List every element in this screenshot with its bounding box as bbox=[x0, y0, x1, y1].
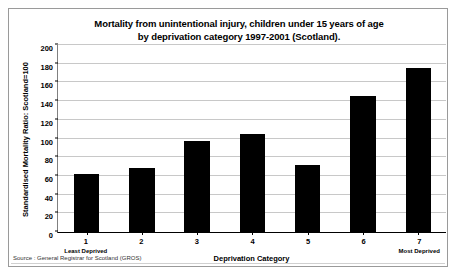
x-axis-tick-mark bbox=[87, 232, 88, 235]
bar-slot bbox=[391, 45, 446, 232]
y-axis-tick-mark bbox=[55, 212, 58, 213]
y-axis-tick-mark bbox=[55, 174, 58, 175]
bar-slot bbox=[335, 45, 390, 232]
x-axis-category-number: 6 bbox=[336, 237, 392, 247]
x-tick-slot bbox=[114, 232, 169, 236]
x-axis-tick-mark bbox=[197, 232, 198, 235]
y-axis-tick-label: 200 bbox=[40, 44, 53, 45]
x-axis-tick-mark bbox=[363, 232, 364, 235]
source-note: Source : General Registrar for Scotland … bbox=[13, 255, 141, 261]
y-axis-tick-label: 100 bbox=[40, 137, 53, 138]
bar-category-7 bbox=[406, 68, 431, 232]
x-tick-slot bbox=[335, 232, 390, 236]
x-tick-slot bbox=[225, 232, 280, 236]
y-axis-tick-mark bbox=[55, 81, 58, 82]
bar-category-2 bbox=[129, 168, 154, 232]
x-axis-category-number: 1 bbox=[58, 237, 114, 247]
bar-category-6 bbox=[350, 96, 375, 232]
bar-series bbox=[59, 45, 446, 232]
bar-category-1 bbox=[74, 174, 99, 232]
x-axis-tick-mark bbox=[308, 232, 309, 235]
y-axis-tick-label: 20 bbox=[45, 212, 53, 213]
y-axis-tick-mark bbox=[55, 44, 58, 45]
y-axis-tick-mark bbox=[55, 156, 58, 157]
chart-frame: Mortality from unintentional injury, chi… bbox=[8, 8, 448, 267]
bar-slot bbox=[280, 45, 335, 232]
x-axis-tick-mark bbox=[418, 232, 419, 235]
y-axis-tick-label: 160 bbox=[40, 81, 53, 82]
bar-slot bbox=[59, 45, 114, 232]
y-axis-tick-mark bbox=[55, 231, 58, 232]
chart-title: Mortality from unintentional injury, chi… bbox=[49, 18, 429, 43]
y-axis-tick-label: 60 bbox=[45, 174, 53, 175]
bar-category-5 bbox=[295, 165, 320, 232]
y-axis-tick-label: 0 bbox=[49, 231, 53, 232]
x-tick-slot bbox=[280, 232, 335, 236]
y-axis-tick-label: 40 bbox=[45, 193, 53, 194]
y-axis-tick-label: 120 bbox=[40, 118, 53, 119]
y-axis-title-label: Standardised Mortality Ratio: Scotland=1… bbox=[21, 62, 30, 217]
x-axis-category-number: 3 bbox=[169, 237, 225, 247]
bar-slot bbox=[114, 45, 169, 232]
bar-category-4 bbox=[240, 134, 265, 232]
x-axis-tick-mark bbox=[142, 232, 143, 235]
y-axis-tick-label: 180 bbox=[40, 62, 53, 63]
x-tick-slot bbox=[391, 232, 446, 236]
y-axis-tick-label: 80 bbox=[45, 156, 53, 157]
x-tick-slot bbox=[59, 232, 114, 236]
y-axis-tick-label: 140 bbox=[40, 100, 53, 101]
bar-category-3 bbox=[184, 141, 209, 232]
y-axis-tick-mark bbox=[55, 62, 58, 63]
x-axis-category-number: 7 bbox=[391, 237, 447, 247]
y-axis-tick-mark bbox=[55, 118, 58, 119]
x-axis-category-number: 2 bbox=[114, 237, 170, 247]
x-axis-category-number: 4 bbox=[225, 237, 281, 247]
x-axis-category-number: 5 bbox=[280, 237, 336, 247]
y-axis-title: Standardised Mortality Ratio: Scotland=1… bbox=[19, 45, 31, 233]
chart-title-line-1: Mortality from unintentional injury, chi… bbox=[49, 18, 429, 31]
y-axis-tick-mark bbox=[55, 137, 58, 138]
x-axis-tick-mark bbox=[252, 232, 253, 235]
chart-title-line-2: by deprivation category 1997-2001 (Scotl… bbox=[49, 31, 429, 44]
y-axis-tick-mark bbox=[55, 100, 58, 101]
plot-area: 020406080100120140160180200 bbox=[57, 45, 446, 233]
bottom-divider bbox=[11, 263, 445, 264]
bar-slot bbox=[225, 45, 280, 232]
bar-slot bbox=[170, 45, 225, 232]
x-tick-slot bbox=[170, 232, 225, 236]
y-axis-tick-mark bbox=[55, 193, 58, 194]
x-axis-ticks bbox=[59, 232, 446, 236]
